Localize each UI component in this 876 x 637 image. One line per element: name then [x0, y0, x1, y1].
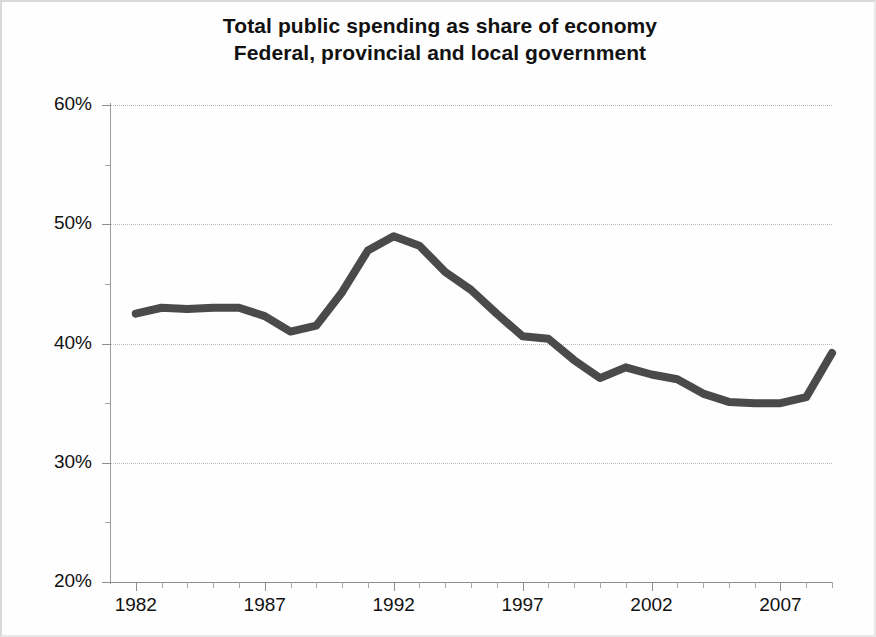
chart-figure: Total public spending as share of econom…	[0, 0, 876, 637]
series-line-total-public-spending	[136, 236, 832, 403]
data-series-layer	[2, 2, 876, 637]
